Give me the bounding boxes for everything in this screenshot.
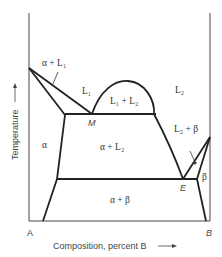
region-L1: L₁ bbox=[82, 86, 91, 96]
region-L1-L2: L₁ + L₂ bbox=[110, 96, 138, 106]
x-axis-label: Composition, percent B bbox=[53, 241, 147, 251]
region-L2: L₂ bbox=[175, 85, 184, 95]
alpha-L1-pointer bbox=[52, 72, 58, 86]
axis-end-B: B bbox=[206, 228, 212, 238]
region-L2-beta: L₂ + β bbox=[174, 124, 198, 134]
point-M-label: M bbox=[88, 118, 96, 128]
beta-solvus-line bbox=[197, 179, 206, 221]
x-axis-arrowhead bbox=[172, 244, 177, 248]
region-alpha-L2: α + L₂ bbox=[100, 142, 124, 152]
region-alpha-beta: α + β bbox=[110, 195, 130, 205]
y-axis-arrowhead bbox=[13, 83, 17, 88]
phase-diagram: α + L₁ L₁ L₁ + L₂ L₂ α α + L₂ L₂ + β β α… bbox=[0, 0, 222, 257]
solidus-line bbox=[29, 68, 65, 115]
axis-end-A: A bbox=[27, 228, 33, 238]
region-alpha-L1: α + L₁ bbox=[42, 58, 66, 68]
alpha-solvus-line bbox=[43, 115, 65, 221]
point-E-label: E bbox=[180, 183, 187, 193]
region-alpha: α bbox=[42, 140, 47, 150]
region-beta: β bbox=[202, 172, 207, 182]
y-axis-label: Temperature bbox=[10, 109, 20, 160]
L2-beta-pointer bbox=[190, 151, 195, 162]
